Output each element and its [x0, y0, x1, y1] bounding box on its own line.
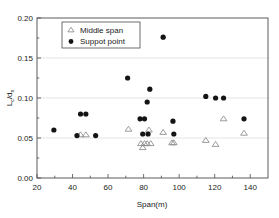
- y-axis-title: Lc/ds: [5, 89, 15, 106]
- data-point-suppot-point: [74, 133, 79, 138]
- x-tick-label: 80: [139, 183, 148, 192]
- data-point-middle-span: [125, 126, 132, 131]
- x-tick-label: 140: [244, 183, 258, 192]
- x-axis-ticks: [37, 174, 250, 178]
- data-point-suppot-point: [83, 111, 88, 116]
- data-point-suppot-point: [125, 75, 130, 80]
- y-tick-label: 0.15: [17, 54, 33, 63]
- data-point-suppot-point: [171, 131, 176, 136]
- data-point-suppot-point: [137, 116, 142, 121]
- data-point-suppot-point: [241, 116, 246, 121]
- chart-canvas: 20406080100120140 0.000.050.100.150.20 M…: [0, 0, 279, 218]
- data-point-middle-span: [241, 130, 248, 135]
- gridlines-group: [37, 58, 268, 138]
- data-point-suppot-point: [140, 131, 145, 136]
- data-point-suppot-point: [203, 94, 208, 99]
- data-point-middle-span: [160, 129, 167, 134]
- data-point-suppot-point: [51, 127, 56, 132]
- data-point-suppot-point: [221, 95, 226, 100]
- y-axis-tick-labels: 0.000.050.100.150.20: [17, 14, 33, 183]
- legend-label-middle-span: Middle span: [80, 26, 123, 35]
- chart-legend: Middle span Suppot point: [62, 22, 140, 48]
- y-tick-label: 0.05: [17, 134, 33, 143]
- y-tick-label: 0.20: [17, 14, 33, 23]
- x-axis-tick-labels: 20406080100120140: [33, 183, 258, 192]
- data-point-middle-span: [83, 132, 90, 137]
- data-point-middle-span: [212, 141, 219, 146]
- y-tick-label: 0.10: [17, 94, 33, 103]
- data-point-middle-span: [220, 116, 227, 121]
- series-suppot-point-points: [51, 35, 246, 139]
- data-point-suppot-point: [145, 131, 150, 136]
- data-point-suppot-point: [145, 99, 150, 104]
- data-point-suppot-point: [93, 133, 98, 138]
- y-axis-ticks: [37, 18, 41, 178]
- legend-label-suppot-point: Suppot point: [80, 37, 126, 46]
- data-point-suppot-point: [142, 116, 147, 121]
- data-point-suppot-point: [78, 111, 83, 116]
- x-tick-label: 60: [104, 183, 113, 192]
- x-tick-label: 20: [33, 183, 42, 192]
- scatter-chart-figure: 20406080100120140 0.000.050.100.150.20 M…: [0, 0, 279, 218]
- data-point-middle-span: [146, 127, 153, 132]
- x-tick-label: 40: [68, 183, 77, 192]
- series-middle-span-points: [77, 116, 247, 150]
- y-axis-title-group: Lc/ds: [5, 89, 15, 106]
- data-point-suppot-point: [213, 95, 218, 100]
- y-tick-label: 0.00: [17, 174, 33, 183]
- x-tick-label: 100: [172, 183, 186, 192]
- x-axis-title: Span(m): [137, 200, 168, 209]
- data-point-suppot-point: [170, 119, 175, 124]
- data-point-suppot-point: [147, 87, 152, 92]
- x-tick-label: 120: [208, 183, 222, 192]
- legend-filled-circle-icon: [69, 39, 74, 44]
- data-point-suppot-point: [161, 35, 166, 40]
